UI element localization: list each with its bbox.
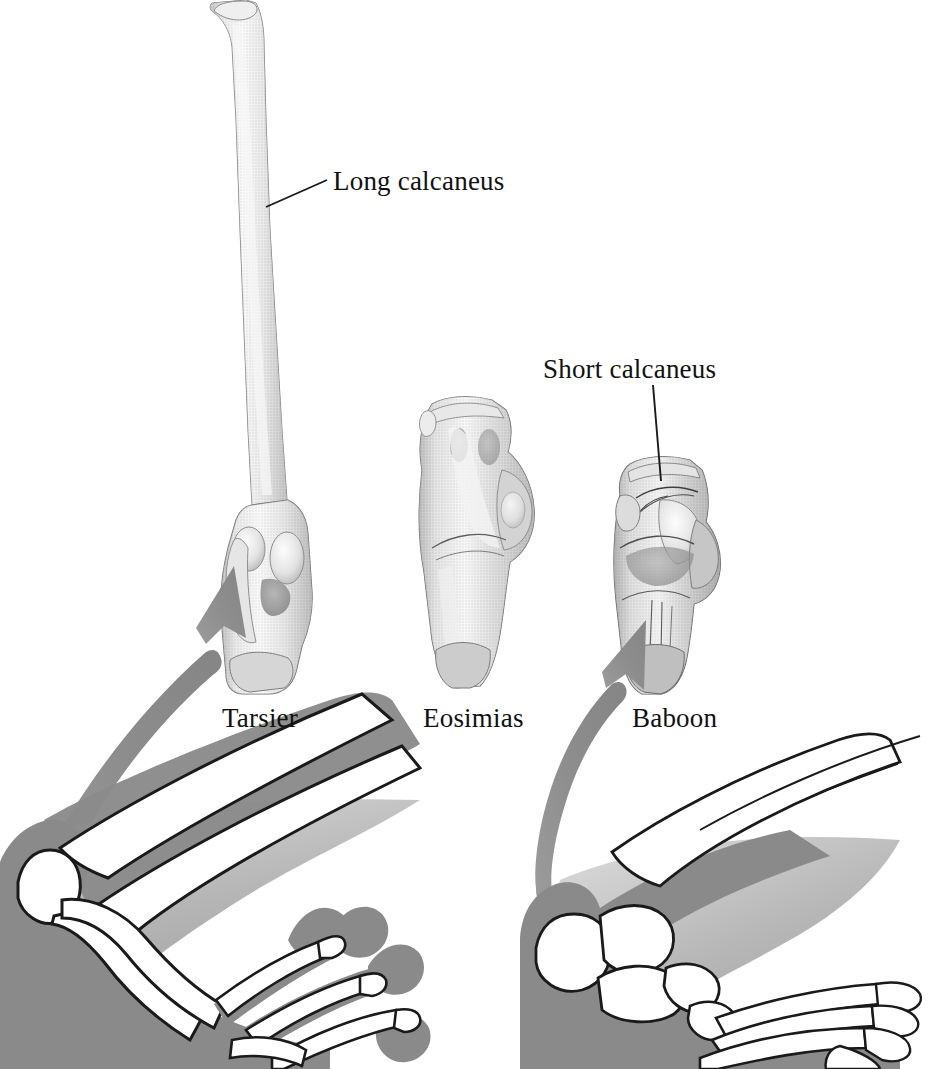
species-label-baboon: Baboon — [632, 703, 717, 734]
callout-long-calcaneus: Long calcaneus — [333, 166, 504, 197]
figure-canvas: Long calcaneus Short calcaneus Tarsier E… — [0, 0, 942, 1069]
species-label-tarsier: Tarsier — [222, 703, 298, 734]
long-calcaneus-leader — [266, 180, 327, 207]
tarsier-foot-diagram — [0, 693, 431, 1069]
baboon-foot-diagram — [520, 734, 921, 1069]
species-label-eosimias: Eosimias — [423, 703, 524, 734]
eosimias-calcaneus-bone — [419, 397, 534, 688]
tarsier-toes — [214, 907, 431, 1069]
callout-short-calcaneus: Short calcaneus — [543, 354, 716, 385]
illustration-svg — [0, 0, 942, 1069]
